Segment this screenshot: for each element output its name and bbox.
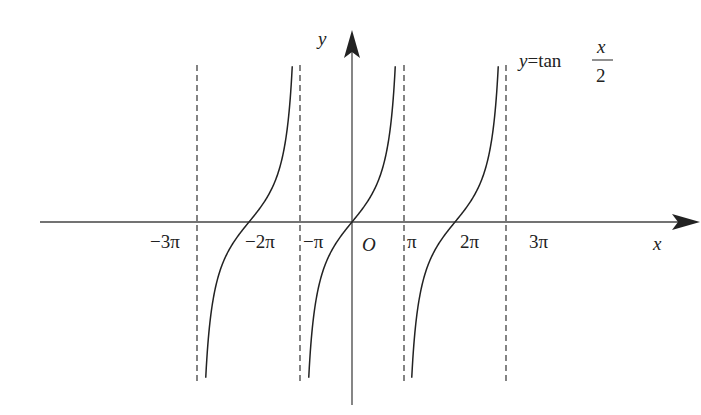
- svg-text:y=tan: y=tan: [517, 50, 562, 71]
- tick-label-neg-2pi: −2π: [245, 231, 275, 252]
- x-axis-label: x: [652, 233, 662, 254]
- annotation-y: y: [517, 50, 528, 71]
- origin-label: O: [362, 234, 376, 255]
- function-annotation: y=tan x 2: [517, 36, 613, 86]
- tick-label-neg-pi: −π: [303, 231, 324, 252]
- tan-half-x-graph: y x O −3π −2π −π π 2π 3π y=tan x 2: [0, 0, 701, 415]
- y-axis-label: y: [316, 28, 327, 49]
- tick-label-pi: π: [407, 231, 417, 252]
- tick-label-3pi: 3π: [529, 231, 549, 252]
- annotation-numerator: x: [596, 36, 606, 57]
- tick-label-2pi: 2π: [460, 231, 480, 252]
- annotation-denominator: 2: [596, 65, 606, 86]
- annotation-prefix: =tan: [527, 50, 561, 71]
- tick-label-neg-3pi: −3π: [150, 231, 180, 252]
